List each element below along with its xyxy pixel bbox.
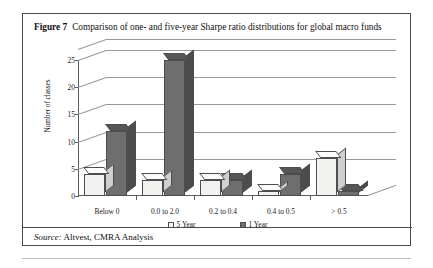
bar-side-face <box>127 120 136 192</box>
bar-front-face <box>142 180 163 196</box>
bar-side-face <box>243 169 252 192</box>
figure-caption: Figure 7Comparison of one- and five-year… <box>34 21 400 33</box>
bar-top-face <box>315 151 341 158</box>
gridline-top <box>106 39 396 40</box>
page-bottom-rule <box>22 258 411 259</box>
chart-axes: Below 00.0 to 2.00.2 to 0.40.4 to 0.5> 0… <box>78 50 396 218</box>
bar-top-face <box>141 173 167 180</box>
bar-front-face <box>84 174 105 196</box>
bar-side-face <box>301 164 310 193</box>
gridline <box>106 159 396 160</box>
bar-5-year <box>142 180 163 196</box>
bar-front-face <box>316 158 337 196</box>
x-tick-mark <box>310 196 311 200</box>
bar-top-face <box>257 184 283 191</box>
bar-top-face <box>83 167 109 174</box>
bar-5-year <box>84 174 105 196</box>
source-label: Source: <box>34 232 62 242</box>
x-axis-label: Below 0 <box>95 207 120 216</box>
x-axis-label: > 0.5 <box>331 207 346 216</box>
bar-5-year <box>258 191 279 196</box>
bar-5-year <box>316 158 337 196</box>
y-tick-label: 15 <box>49 110 75 119</box>
x-axis-label: 0.4 to 0.5 <box>267 207 295 216</box>
y-tick-label: 25 <box>49 56 75 65</box>
gridline <box>106 132 396 133</box>
figure-number: Figure 7 <box>34 22 67 32</box>
gridline <box>106 104 396 105</box>
bar-side-face <box>185 50 194 193</box>
gridline <box>106 50 396 51</box>
source-divider <box>23 227 412 228</box>
gridline-depth-segment <box>78 104 106 115</box>
figure-container: Figure 7Comparison of one- and five-year… <box>22 13 411 246</box>
y-tick-label: 5 <box>49 164 75 173</box>
source-text: Altvest, CMRA Analysis <box>62 232 154 242</box>
y-tick-label: 20 <box>49 83 75 92</box>
x-axis-label: 0.0 to 2.0 <box>151 207 179 216</box>
gridline-depth-segment <box>78 50 106 61</box>
gridline-depth-segment <box>78 77 106 88</box>
figure-source: Source: Altvest, CMRA Analysis <box>34 232 153 242</box>
y-tick-mark <box>75 196 79 197</box>
bar-front-face <box>200 180 221 196</box>
gridline <box>106 77 396 78</box>
bar-1-year <box>338 191 359 196</box>
bar-5-year <box>200 180 221 196</box>
bar-top-face <box>199 173 225 180</box>
figure-caption-text: Comparison of one- and five-year Sharpe … <box>72 22 382 32</box>
gridline-depth-segment <box>78 39 106 50</box>
bar-front-face <box>258 191 279 196</box>
x-tick-mark <box>136 196 137 200</box>
chart-plot-area: Number of classes 0510152025 Below 00.0 … <box>33 50 401 218</box>
gridline-depth-segment <box>78 132 106 143</box>
y-axis-line <box>78 60 79 196</box>
bar-top-face <box>279 167 305 174</box>
bar-top-face <box>105 124 131 131</box>
y-axis-ticks: 0510152025 <box>47 50 75 218</box>
y-tick-label: 0 <box>49 192 75 201</box>
y-tick-label: 10 <box>49 137 75 146</box>
x-tick-mark <box>252 196 253 200</box>
bar-front-face <box>338 191 359 196</box>
x-tick-mark <box>194 196 195 200</box>
bar-top-face <box>163 53 189 60</box>
floor-depth-edge <box>368 185 397 196</box>
x-axis-label: 0.2 to 0.4 <box>209 207 237 216</box>
